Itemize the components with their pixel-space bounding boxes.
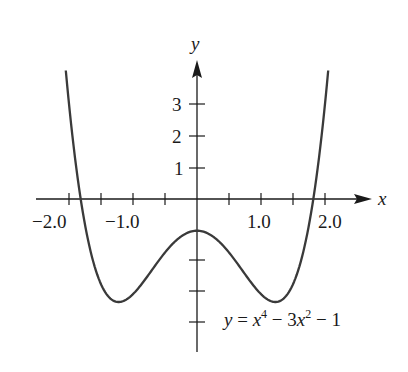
equation-label: y = x4 − 3x2 − 1 <box>222 307 341 330</box>
chart: −2.0 −1.0 1.0 2.0 3 2 1 y x y = x4 − 3x2… <box>0 0 408 372</box>
y-tick-label: 1 <box>174 158 184 179</box>
y-axis-label: y <box>189 33 200 54</box>
y-tick-label: 3 <box>172 94 182 115</box>
x-axis-label: x <box>377 188 387 209</box>
x-tick-label: 1.0 <box>247 211 271 232</box>
x-tick-label: −2.0 <box>32 211 66 232</box>
y-tick-label: 2 <box>172 126 182 147</box>
x-tick-label: −1.0 <box>105 211 139 232</box>
x-tick-label: 2.0 <box>318 211 342 232</box>
